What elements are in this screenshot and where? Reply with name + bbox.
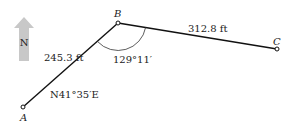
- ab-length-label: 245.3 ft: [44, 52, 84, 63]
- point-b: [116, 21, 120, 25]
- survey-diagram: N A B C 245.3 ft N41°35′E 312.8 ft 129°1…: [0, 0, 293, 129]
- point-b-label: B: [113, 8, 121, 19]
- point-a-label: A: [19, 112, 27, 123]
- bc-length-label: 312.8 ft: [188, 23, 228, 34]
- angle-arc: [98, 28, 146, 51]
- point-c: [275, 47, 279, 51]
- angle-b-label: 129°11′: [113, 54, 153, 65]
- point-c-label: C: [273, 36, 281, 47]
- north-arrow-icon: N: [14, 17, 34, 61]
- north-label: N: [20, 37, 29, 48]
- point-a: [21, 105, 25, 109]
- ab-bearing-label: N41°35′E: [50, 89, 99, 100]
